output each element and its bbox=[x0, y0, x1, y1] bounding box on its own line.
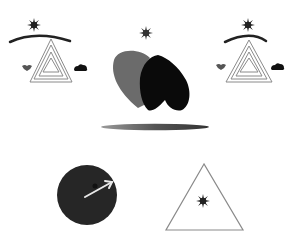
dark-circle bbox=[57, 165, 117, 225]
star-icon bbox=[139, 26, 153, 40]
center-hearts bbox=[101, 26, 209, 130]
illustration-canvas bbox=[0, 0, 301, 241]
triangle-icon bbox=[166, 164, 243, 230]
left-emblem bbox=[10, 18, 87, 82]
star-icon bbox=[196, 194, 210, 208]
star-icon bbox=[241, 18, 255, 32]
cloud-icon bbox=[74, 64, 87, 71]
nested-triangle-icon bbox=[226, 40, 272, 82]
small-heart-icon bbox=[216, 64, 226, 70]
arc-icon bbox=[225, 36, 266, 42]
small-heart-icon bbox=[22, 65, 32, 71]
bar-icon bbox=[101, 124, 209, 130]
star-icon bbox=[27, 18, 41, 32]
cloud-icon bbox=[271, 63, 284, 70]
arc-icon bbox=[10, 36, 70, 42]
heart-icon bbox=[140, 55, 190, 111]
right-emblem bbox=[216, 18, 284, 82]
nested-triangle-icon bbox=[30, 39, 72, 82]
star-triangle bbox=[166, 164, 243, 230]
